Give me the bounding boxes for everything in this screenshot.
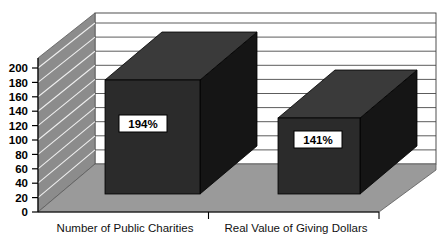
bar-1-data-label: 141%: [294, 131, 342, 148]
x-category-label-0: Number of Public Charities: [57, 222, 194, 234]
bar-chart-3d: 0 20 40 60 80 100 120 140 160 180 200 19…: [0, 0, 447, 241]
x-category-label-1: Real Value of Giving Dollars: [225, 222, 368, 234]
bar-1-front: [278, 118, 360, 194]
bar-0-data-label-text: 194%: [128, 118, 157, 130]
chart-container: 0 20 40 60 80 100 120 140 160 180 200 19…: [0, 0, 447, 241]
bar-0-front: [105, 80, 200, 194]
y-tick-label-40: 40: [15, 177, 28, 189]
y-axis: 0 20 40 60 80 100 120 140 160 180 200: [9, 58, 38, 218]
y-tick-label-100: 100: [9, 134, 28, 146]
y-tick-label-160: 160: [9, 91, 28, 103]
y-tick-label-80: 80: [15, 149, 28, 161]
y-tick-label-0: 0: [22, 206, 28, 218]
bar-1-data-label-text: 141%: [303, 134, 332, 146]
y-tick-label-60: 60: [15, 163, 28, 175]
bar-0-data-label: 194%: [119, 115, 167, 132]
x-axis: [38, 212, 379, 219]
y-tick-label-200: 200: [9, 62, 28, 74]
y-tick-label-180: 180: [9, 77, 28, 89]
y-tick-label-20: 20: [15, 192, 28, 204]
y-tick-label-140: 140: [9, 105, 28, 117]
y-tick-label-120: 120: [9, 120, 28, 132]
y-axis-ticks: [32, 68, 38, 212]
